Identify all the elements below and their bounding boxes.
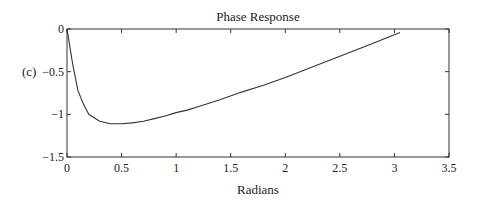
y-tick-label: 0 <box>58 22 64 36</box>
x-tick-label: 1 <box>173 161 179 175</box>
y-tick-label: −0.5 <box>42 65 64 79</box>
x-tick-label: 3.5 <box>442 161 457 175</box>
x-tick-label: 3 <box>391 161 397 175</box>
x-tick-labels: 00.511.522.533.5 <box>64 161 457 175</box>
x-tick-label: 2.5 <box>332 161 347 175</box>
phase-curve <box>67 29 400 124</box>
panel-label: (c) <box>22 64 36 79</box>
plot-frame <box>67 29 449 157</box>
chart-title: Phase Response <box>216 9 300 24</box>
axis-ticks <box>67 29 449 157</box>
y-tick-label: −1 <box>51 107 64 121</box>
x-tick-label: 1.5 <box>223 161 238 175</box>
x-tick-label: 2 <box>282 161 288 175</box>
x-tick-label: 0.5 <box>114 161 129 175</box>
y-tick-label: −1.5 <box>42 150 64 164</box>
x-axis-label: Radians <box>237 182 279 197</box>
phase-response-chart: Phase Response (c) 00.511.522.533.5 0−0.… <box>0 0 477 200</box>
y-tick-labels: 0−0.5−1−1.5 <box>42 22 64 164</box>
x-tick-label: 0 <box>64 161 70 175</box>
